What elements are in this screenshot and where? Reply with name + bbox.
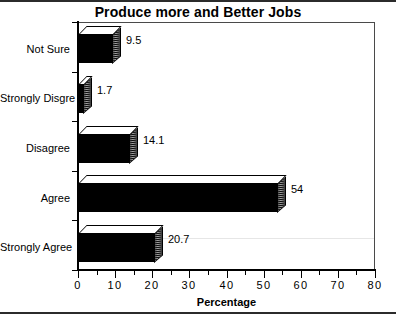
x-tick-minor <box>356 271 357 275</box>
bar-front-face <box>78 134 130 163</box>
bar-front-face <box>78 233 155 262</box>
value-label: 9.5 <box>126 34 141 46</box>
bar <box>78 26 113 55</box>
category-label: Agree <box>0 192 70 204</box>
x-tick-minor <box>171 271 172 275</box>
y-tick <box>72 270 78 271</box>
category-label: Not Sure <box>0 43 70 55</box>
chart-title: Produce more and Better Jobs <box>0 4 396 20</box>
bar <box>78 225 155 254</box>
category-label: Strongly Disgre <box>0 92 70 104</box>
bar <box>78 175 278 204</box>
y-tick <box>72 121 78 122</box>
x-tick-major <box>78 271 79 278</box>
x-tick-label: 70 <box>318 279 358 291</box>
value-label: 1.7 <box>97 84 112 96</box>
x-tick-label: 80 <box>355 279 395 291</box>
x-tick-major <box>301 271 302 278</box>
y-tick <box>72 220 78 221</box>
x-tick-label: 50 <box>244 279 284 291</box>
x-tick-minor <box>319 271 320 275</box>
bar-front-face <box>78 84 84 113</box>
x-tick-minor <box>208 271 209 275</box>
x-tick-major <box>227 271 228 278</box>
x-tick-minor <box>282 271 283 275</box>
x-tick-minor <box>97 271 98 275</box>
bottom-divider-rule <box>0 312 396 314</box>
x-tick-major <box>375 271 376 278</box>
top-divider-rule <box>0 0 396 2</box>
x-tick-label: 30 <box>169 279 209 291</box>
x-tick-label: 10 <box>95 279 135 291</box>
category-label: Disagree <box>0 142 70 154</box>
y-tick <box>72 72 78 73</box>
x-tick-label: 20 <box>132 279 172 291</box>
x-tick-minor <box>245 271 246 275</box>
bar-front-face <box>78 34 113 63</box>
chart-figure: Produce more and Better Jobs 01020304050… <box>0 0 396 321</box>
y-tick <box>72 171 78 172</box>
x-tick-major <box>152 271 153 278</box>
x-tick-label: 40 <box>207 279 247 291</box>
x-tick-major <box>189 271 190 278</box>
x-axis-title: Percentage <box>78 296 375 308</box>
x-tick-major <box>338 271 339 278</box>
bar-front-face <box>78 183 278 212</box>
value-label: 54 <box>291 183 303 195</box>
x-tick-major <box>264 271 265 278</box>
bar <box>78 126 130 155</box>
x-tick-minor <box>134 271 135 275</box>
bar <box>78 76 84 105</box>
category-label: Strongly Agree <box>0 241 70 253</box>
value-label: 20.7 <box>168 233 189 245</box>
x-tick-label: 0 <box>58 279 98 291</box>
x-tick-major <box>115 271 116 278</box>
x-tick-label: 60 <box>281 279 321 291</box>
value-label: 14.1 <box>143 134 164 146</box>
y-tick <box>72 22 78 23</box>
